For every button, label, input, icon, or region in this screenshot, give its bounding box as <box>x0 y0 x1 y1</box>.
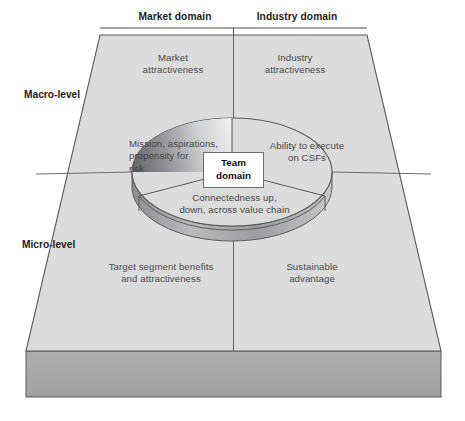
disc-segment-connectedness: Connectedness up, down, across value cha… <box>147 192 322 217</box>
disc-segment-ability-to-execute: Ability to execute on CSFs <box>252 140 362 165</box>
quadrant-industry-attractiveness: Industry attractiveness <box>235 52 355 76</box>
base-slab <box>26 351 441 397</box>
strategy-diagram: Market domain Industry domain Macro-leve… <box>0 0 465 421</box>
macro-level-label: Macro-level <box>24 88 80 101</box>
top-domain-rule <box>100 28 367 35</box>
industry-domain-header: Industry domain <box>232 10 362 23</box>
quadrant-target-segment-benefits: Target segment benefits and attractivene… <box>86 261 236 285</box>
market-domain-header: Market domain <box>115 10 235 23</box>
quadrant-sustainable-advantage: Sustainable advantage <box>252 261 372 285</box>
team-domain-box: Team domain <box>203 152 264 188</box>
micro-level-label: Micro-level <box>22 238 75 251</box>
quadrant-market-attractiveness: Market attractiveness <box>113 52 233 76</box>
